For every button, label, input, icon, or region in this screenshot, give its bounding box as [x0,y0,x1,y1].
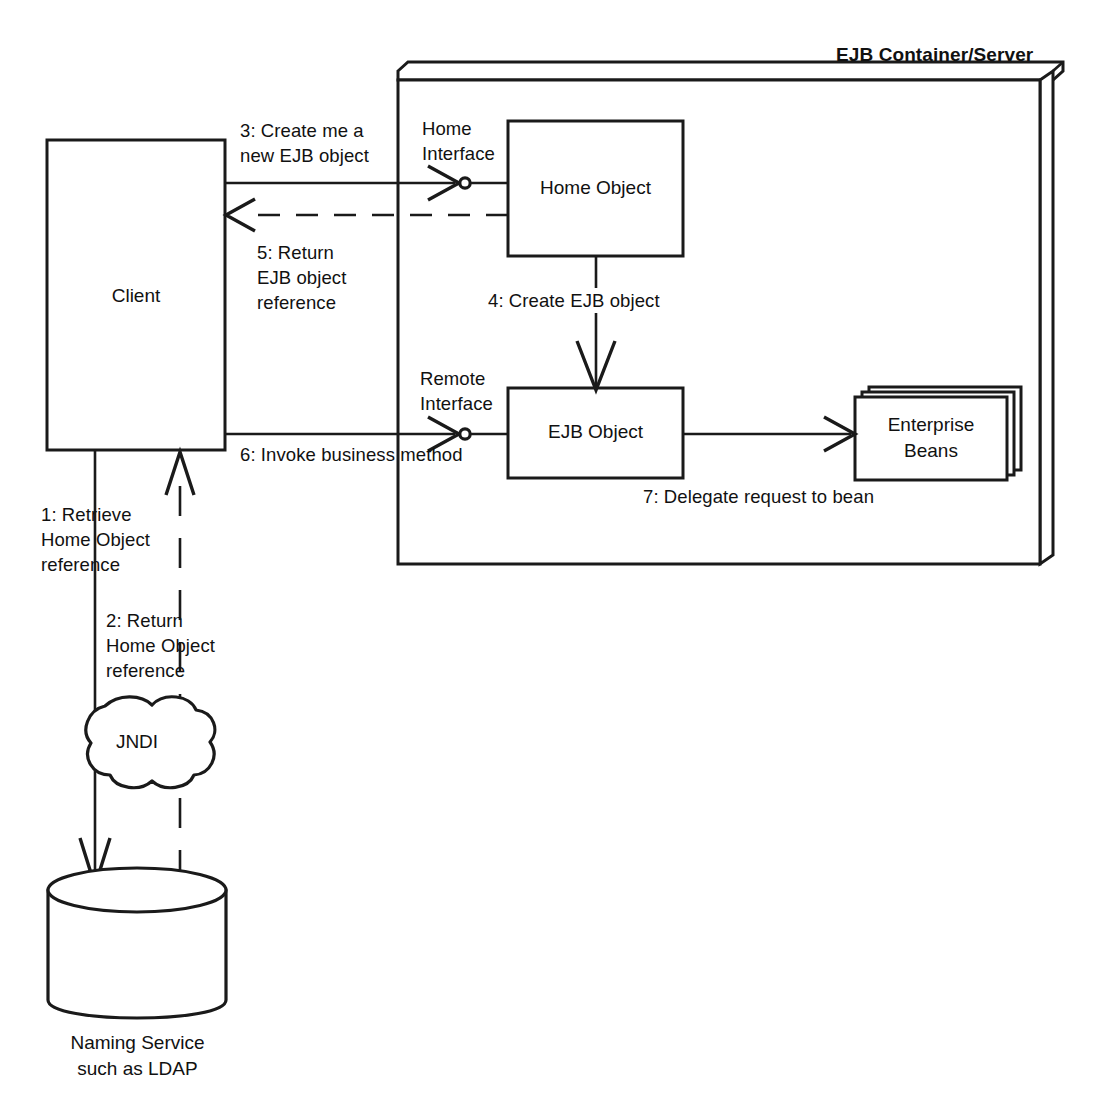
step-7-label: 7: Delegate request to bean [643,484,874,509]
step-5-arrowhead [226,199,255,231]
enterprise-beans-label: Enterprise Beans [855,412,1007,464]
naming-service-caption: Naming Service such as LDAP [25,1030,250,1082]
jndi-label: JNDI [62,729,212,755]
step-3-label: 3: Create me a new EJB object [240,118,369,168]
home-interface-socket [460,178,470,188]
home-object-label: Home Object [508,175,683,201]
remote-interface-label: Remote Interface [420,366,493,416]
ejb-object-label: EJB Object [508,419,683,445]
step-2-label: 2: Return Home Object reference [106,608,215,683]
cylinder-top-ellipse [48,868,226,912]
client-label: Client [47,283,225,309]
step-5-label: 5: Return EJB object reference [257,240,346,315]
container-title: EJB Container/Server [836,42,1033,67]
step-6-label: 6: Invoke business method [240,442,463,467]
diagram-canvas: EJB Container/Server Client Home Object … [0,0,1100,1111]
diagram-svg [0,0,1100,1111]
home-interface-label: Home Interface [422,116,495,166]
step-4-label: 4: Create EJB object [484,288,664,313]
container-right-face [1040,71,1053,564]
step-1-label: 1: Retrieve Home Object reference [41,502,150,577]
naming-service-cylinder [48,868,226,1018]
remote-interface-socket [460,429,470,439]
